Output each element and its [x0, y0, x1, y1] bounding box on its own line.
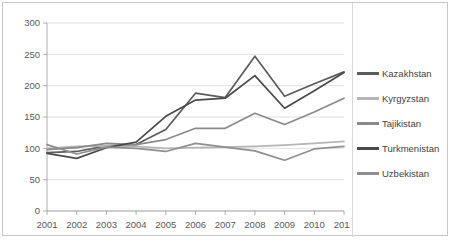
y-axis-tick-label: 250 — [24, 49, 40, 60]
series-line-kazakhstan — [47, 56, 344, 153]
chart-plot-container: 0501001502002503002001200220032004200520… — [3, 3, 350, 237]
x-axis-tick-label: 2001 — [36, 219, 57, 230]
chart-legend: KazakhstanKyrgyzstanTajikistanTurkmenist… — [352, 3, 450, 237]
chart-frame: 0501001502002503002001200220032004200520… — [2, 2, 448, 236]
y-axis-tick-label: 300 — [24, 17, 40, 28]
x-axis-tick-label: 2002 — [66, 219, 87, 230]
x-axis-tick-label: 2007 — [215, 219, 236, 230]
legend-item-label: Kazakhstan — [382, 68, 432, 79]
y-axis-tick-label: 150 — [24, 111, 40, 122]
y-axis-tick-label: 50 — [29, 174, 40, 185]
legend-item[interactable]: Uzbekistan — [357, 161, 439, 186]
line-chart: 0501001502002503002001200220032004200520… — [3, 3, 350, 237]
legend-color-swatch — [357, 147, 379, 149]
legend-color-swatch — [357, 97, 379, 99]
legend-list: KazakhstanKyrgyzstanTajikistanTurkmenist… — [357, 61, 439, 186]
x-axis-tick-label: 2009 — [274, 219, 295, 230]
legend-item-label: Turkmenistan — [382, 143, 439, 154]
x-axis-tick-label: 2008 — [244, 219, 265, 230]
x-axis-tick-label: 2011 — [334, 219, 350, 230]
legend-item[interactable]: Turkmenistan — [357, 136, 439, 161]
legend-item-label: Tajikistan — [382, 118, 421, 129]
x-axis-tick-label: 2003 — [96, 219, 117, 230]
y-axis-tick-label: 100 — [24, 143, 40, 154]
y-axis-tick-label: 200 — [24, 80, 40, 91]
legend-item[interactable]: Kyrgyzstan — [357, 86, 439, 111]
x-axis-tick-label: 2010 — [304, 219, 325, 230]
x-axis-tick-label: 2006 — [185, 219, 206, 230]
legend-item[interactable]: Kazakhstan — [357, 61, 439, 86]
legend-color-swatch — [357, 122, 379, 124]
series-line-tajikistan — [47, 98, 344, 149]
legend-item[interactable]: Tajikistan — [357, 111, 439, 136]
x-axis-tick-label: 2005 — [155, 219, 176, 230]
y-axis-tick-label: 0 — [35, 205, 40, 216]
legend-item-label: Kyrgyzstan — [382, 93, 429, 104]
legend-color-swatch — [357, 72, 379, 74]
legend-item-label: Uzbekistan — [382, 168, 429, 179]
legend-color-swatch — [357, 172, 379, 174]
x-axis-tick-label: 2004 — [126, 219, 147, 230]
